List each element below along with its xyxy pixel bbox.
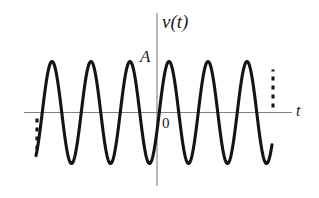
y-axis-label: v(t) (162, 12, 188, 31)
amplitude-label: A (140, 48, 150, 65)
waveform-figure: v(t) A 0 t (0, 0, 319, 198)
origin-label: 0 (162, 116, 170, 131)
waveform-canvas (0, 0, 319, 198)
x-axis-label: t (296, 103, 300, 119)
